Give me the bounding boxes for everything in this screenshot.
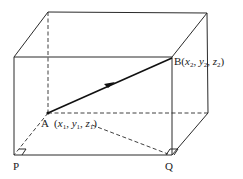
label-p: P (13, 160, 19, 172)
point-a-dot (46, 111, 49, 114)
vector-ab (48, 58, 172, 113)
label-a: A (x1, y1, z1) (41, 117, 97, 131)
label-q: Q (165, 160, 173, 172)
box-diagram: A (x1, y1, z1) B(x2, y2, z2) P Q (0, 0, 243, 179)
label-b: B(x2, y2, z2) (174, 55, 225, 69)
front-face (14, 57, 172, 155)
top-face (14, 12, 207, 57)
right-angle-marker-p (19, 149, 26, 155)
